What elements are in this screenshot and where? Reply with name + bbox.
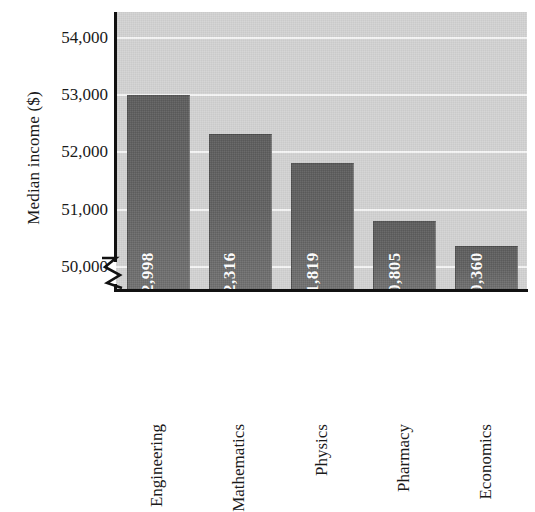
y-axis-tick-label: 52,000 [6,142,116,162]
bar[interactable]: 52,998 [127,95,190,290]
bar-value-label: 50,360 [467,252,487,290]
bar-value-label: 51,819 [303,252,323,290]
x-axis-category-text: Engineering [147,424,167,507]
bar-value-label: 52,316 [220,252,240,290]
plot-area: 52,99852,31651,81950,80550,360 [116,12,527,290]
gridline [116,37,527,39]
bar[interactable]: 50,805 [373,221,436,290]
x-axis-line [114,289,528,292]
bar[interactable]: 51,819 [291,163,354,290]
bar[interactable]: 50,360 [455,246,518,290]
y-axis-tick-label: 53,000 [6,85,116,105]
x-axis-category-text: Economics [476,424,496,500]
y-axis-tick-label: 54,000 [6,28,116,48]
y-axis-line [114,12,117,262]
bar-value-label: 50,805 [385,252,405,290]
y-axis-tick-labels: 50,00051,00052,00053,00054,000 [0,0,116,442]
x-axis-category-text: Physics [312,424,332,476]
x-axis-category-labels: EngineeringMathematicsPhysicsPharmacyEco… [116,296,527,442]
bar[interactable]: 52,316 [209,134,272,290]
y-axis-tick-label: 51,000 [6,200,116,220]
bar-value-label: 52,998 [138,252,158,290]
axis-break-icon [100,256,126,290]
x-axis-category-text: Mathematics [229,424,249,512]
x-axis-category-text: Pharmacy [394,424,414,492]
